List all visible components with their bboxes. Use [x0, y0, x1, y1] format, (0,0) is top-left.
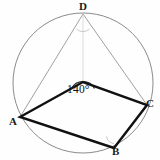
angle-arc-B — [107, 137, 115, 144]
segment-D-C — [83, 14, 147, 105]
geometry-figure: A B C D 140° — [0, 0, 160, 160]
angle-measure-label: 140° — [67, 84, 90, 96]
vertex-label-d: D — [79, 1, 87, 12]
vertex-label-b: B — [112, 146, 119, 157]
vertex-label-c: C — [146, 98, 154, 109]
segment-D-A — [20, 14, 83, 117]
vertex-label-a: A — [9, 116, 17, 127]
figure-canvas — [0, 0, 160, 160]
